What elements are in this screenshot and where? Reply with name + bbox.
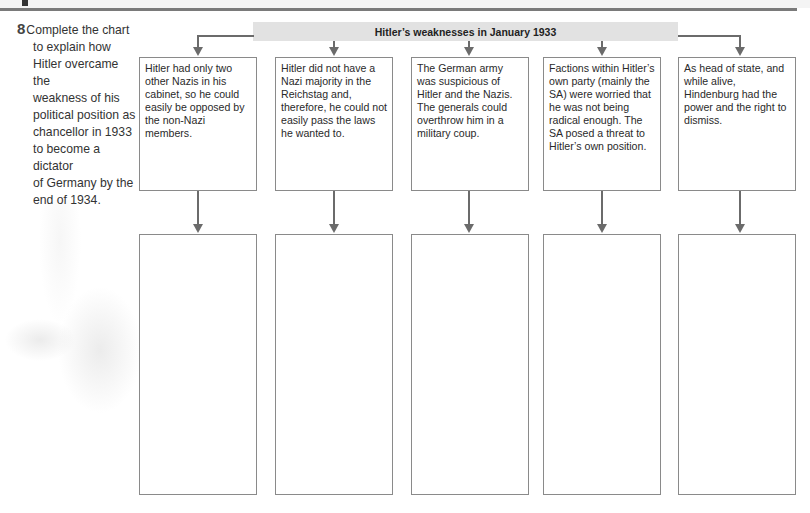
- weakness-text: Factions within Hitler’s own party (main…: [549, 62, 655, 152]
- question-line: political position as: [17, 107, 137, 124]
- background-photo: [0, 200, 150, 513]
- arrow-down-icon: [735, 224, 745, 233]
- weakness-text: Hitler did not have a Nazi majority in t…: [281, 62, 387, 139]
- connector-down-4: [601, 191, 603, 225]
- answer-box-2[interactable]: [275, 234, 393, 495]
- arrow-down-icon: [464, 224, 474, 233]
- arrow-down-icon: [735, 47, 745, 56]
- question-line: to become a dictator: [17, 141, 137, 175]
- connector-right-horizontal: [678, 35, 741, 37]
- arrow-down-icon: [329, 224, 339, 233]
- question-line: weakness of his: [17, 90, 137, 107]
- question-line: end of 1934.: [17, 192, 137, 209]
- question-line: to explain how: [17, 39, 137, 56]
- answer-box-1[interactable]: [139, 234, 257, 495]
- question-line: chancellor in 1933: [17, 124, 137, 141]
- arrow-down-icon: [597, 224, 607, 233]
- connector-down-3: [468, 191, 470, 225]
- question-line: 8Complete the chart: [17, 20, 137, 39]
- question-line: Hitler overcame the: [17, 56, 137, 90]
- top-divider-rule: [0, 8, 797, 11]
- weakness-box-reichstag: Hitler did not have a Nazi majority in t…: [275, 57, 393, 191]
- connector-down-1: [197, 191, 199, 225]
- chart-title-bar: Hitler’s weaknesses in January 1933: [253, 22, 678, 41]
- weakness-box-cabinet: Hitler had only two other Nazis in his c…: [139, 57, 257, 191]
- connector-left-horizontal: [197, 35, 254, 37]
- arrow-down-icon: [464, 47, 474, 56]
- weakness-text: Hitler had only two other Nazis in his c…: [145, 62, 245, 139]
- question-prompt: 8Complete the chart to explain how Hitle…: [17, 20, 137, 209]
- connector-down-5: [739, 191, 741, 225]
- weakness-box-sa: Factions within Hitler’s own party (main…: [543, 57, 661, 191]
- answer-box-4[interactable]: [543, 234, 661, 495]
- arrow-down-icon: [193, 47, 203, 56]
- weakness-text: As head of state, and while alive, Hinde…: [684, 62, 786, 126]
- question-line: of Germany by the: [17, 175, 137, 192]
- question-number: 8: [17, 20, 25, 37]
- answer-box-3[interactable]: [411, 234, 529, 495]
- weakness-box-hindenburg: As head of state, and while alive, Hinde…: [678, 57, 796, 191]
- question-mark-glyph-fragment: [22, 0, 28, 6]
- arrow-down-icon: [329, 47, 339, 56]
- arrow-down-icon: [597, 47, 607, 56]
- chart-title: Hitler’s weaknesses in January 1933: [375, 26, 557, 38]
- answer-box-5[interactable]: [678, 234, 796, 495]
- page-top-strip: [0, 0, 810, 8]
- connector-down-2: [333, 191, 335, 225]
- arrow-down-icon: [193, 224, 203, 233]
- weakness-text: The German army was suspicious of Hitler…: [417, 62, 512, 139]
- weakness-box-army: The German army was suspicious of Hitler…: [411, 57, 529, 191]
